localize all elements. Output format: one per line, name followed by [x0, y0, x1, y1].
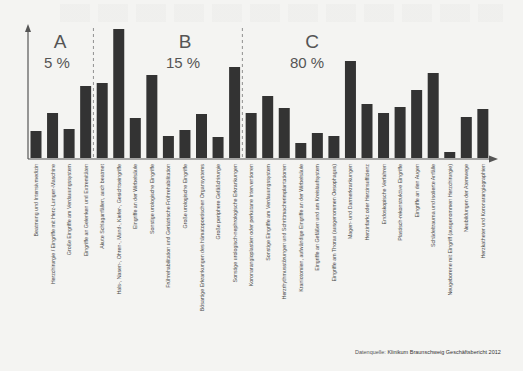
category-label: Neubildungen der Atemwege — [463, 164, 469, 232]
category-label: Eingriffe an den Augen — [414, 164, 420, 218]
bar — [461, 117, 472, 158]
category-label: Koronarangioplastien oder perkutane Inte… — [248, 164, 254, 286]
bar — [428, 73, 439, 158]
group-share: 80 % — [290, 54, 324, 71]
bar — [246, 113, 257, 158]
category-label: Eingriffe an Gefäßen und am Kreislaufsys… — [314, 163, 320, 270]
x-axis-arrow-icon — [489, 156, 498, 163]
bar — [477, 109, 488, 158]
category-label: Große urologische Eingriffe — [182, 164, 188, 228]
bar — [163, 136, 174, 158]
group-letter: C — [305, 31, 319, 52]
group-share: 5 % — [44, 54, 70, 71]
group-letter: B — [179, 31, 192, 52]
category-label: Plastisch-rekonstruktive Eingriffe — [397, 164, 403, 241]
category-label: Akute Schlaganfällen, auch beatmet — [99, 163, 105, 248]
bar — [179, 130, 190, 158]
bar — [113, 29, 124, 158]
bar — [64, 129, 75, 158]
category-label: Sonstige urologisch-nephrologische Erkra… — [232, 164, 238, 282]
category-label: Hals-, Nasen-, Ohren-, Mund-, Kiefer-, G… — [116, 164, 122, 295]
category-label: Herzinfarkt oder Herzinsuffizienz — [364, 164, 370, 241]
bar — [80, 86, 91, 158]
source-text: Klinikum Braunschweig Geschäftsbericht 2… — [387, 349, 500, 355]
group-labels: A5 %B15 %C80 % — [44, 31, 324, 71]
bar — [312, 133, 323, 158]
axes — [25, 24, 498, 163]
bar — [262, 96, 273, 158]
category-label: Endoskopische Verfahren — [381, 164, 387, 224]
bar — [328, 136, 339, 158]
bar — [97, 83, 108, 158]
source-prefix: Datenquelle: — [355, 349, 387, 355]
bar — [345, 61, 356, 158]
bar — [295, 143, 306, 158]
group-letter: A — [54, 31, 67, 52]
bars-layer — [31, 29, 489, 158]
bar — [146, 75, 157, 158]
category-label: Große Eingriffe am Verdauungssystem — [66, 163, 72, 255]
group-share: 15 % — [166, 54, 200, 71]
category-label: Kraniotomien, aufwändige Eingriffe an de… — [298, 164, 304, 292]
bar — [411, 90, 422, 158]
y-axis-arrow-icon — [25, 24, 31, 32]
category-label: Sonstige urologische Eingriffe — [149, 164, 155, 234]
bar — [31, 131, 42, 158]
bar — [130, 118, 141, 158]
data-source-note: Datenquelle: Klinikum Braunschweig Gesch… — [355, 349, 501, 355]
category-label: Große periphere Gefäßchirurgie — [215, 164, 221, 239]
bar — [196, 114, 207, 158]
category-label: Herzchirurgie / Eingriffe mit Herz-Lunge… — [50, 164, 56, 284]
category-label: Magen- und Darmerkrankungen — [347, 164, 353, 239]
category-label: Herzkatheter und Koronarangiographien — [480, 164, 486, 259]
category-labels: Beatmung und IntensivmedizinHerzchirurgi… — [33, 163, 486, 311]
category-label: Eingriffe an Gelenken und Extremitäten — [83, 164, 89, 256]
category-label: Bösartige Erkrankungen des hämatopoetisc… — [199, 164, 205, 312]
bar — [213, 137, 224, 158]
category-label: Eingriffe an der Wirbelsäule — [132, 164, 138, 229]
bar — [47, 113, 58, 158]
category-label: Eingriffe am Thorax (ausgenommen Oesopha… — [331, 164, 337, 282]
category-label: Schädeltrauma und isolierte Anfälle — [430, 164, 436, 247]
bar — [378, 113, 389, 158]
category-label: Sonstige Eingriffe am Verdauungssystem — [265, 163, 271, 260]
category-label: Frührehabilitation und Geriatrische Früh… — [165, 164, 171, 288]
bar-chart: A5 %B15 %C80 % Beatmung und Intensivmedi… — [0, 0, 523, 371]
category-label: Beatmung und Intensivmedizin — [33, 164, 39, 236]
bar — [395, 107, 406, 158]
bar — [229, 67, 240, 158]
bar — [444, 152, 455, 158]
bar — [279, 108, 290, 158]
bar — [362, 104, 373, 158]
category-label: Herzrhythmusstörungen und Schrittmacheri… — [281, 164, 287, 299]
category-label: Neugeborene mit Eingriff (ausgenommen He… — [447, 164, 453, 296]
